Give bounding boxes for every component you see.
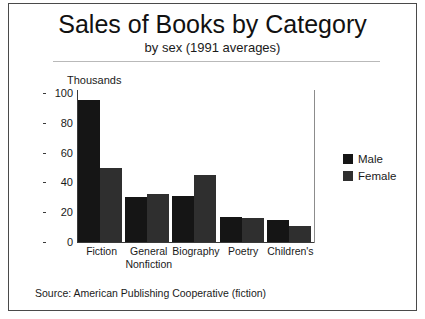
y-axis-unit-label: Thousands <box>67 74 121 86</box>
y-tick-mark <box>43 153 46 154</box>
bar-female <box>289 226 311 242</box>
bar-female <box>242 218 264 242</box>
bars-layer <box>78 93 314 242</box>
y-tick-mark <box>43 212 46 213</box>
x-axis-line <box>77 242 315 243</box>
category-label-line1: Fiction <box>86 245 117 257</box>
category-label-line1: General <box>130 245 167 257</box>
y-tick-mark <box>43 93 46 94</box>
bar-group <box>172 93 219 242</box>
y-tick-label: 20 <box>43 206 73 218</box>
bar-male <box>267 220 289 242</box>
legend-swatch-icon <box>343 154 353 164</box>
source-note: Source: American Publishing Cooperative … <box>35 287 266 299</box>
legend-label: Male <box>358 153 383 165</box>
y-tick-label: 100 <box>43 87 73 99</box>
bar-group <box>78 93 125 242</box>
bar-male <box>220 217 242 242</box>
legend-label: Female <box>358 170 396 182</box>
bar-male <box>172 196 194 242</box>
plot-area: Thousands 020406080100 FictionGeneralNon… <box>9 4 416 310</box>
plot-right-border <box>314 90 315 243</box>
bar-group <box>125 93 172 242</box>
bar-female <box>100 168 122 243</box>
y-tick-label: 60 <box>43 147 73 159</box>
bar-male <box>78 100 100 242</box>
category-label-line2: Nonfiction <box>116 258 181 271</box>
category-label: Children's <box>258 245 323 258</box>
bar-female <box>147 194 169 242</box>
y-tick-mark <box>43 123 46 124</box>
x-axis-category-labels: FictionGeneralNonfictionBiographyPoetryC… <box>78 245 314 279</box>
category-label-line1: Children's <box>267 245 313 257</box>
legend-swatch-icon <box>343 171 353 181</box>
y-tick-label: 40 <box>43 176 73 188</box>
bar-male <box>125 197 147 242</box>
y-axis-tick-labels: 020406080100 <box>43 4 73 310</box>
legend-item: Female <box>343 167 396 184</box>
legend-item: Male <box>343 150 396 167</box>
y-tick-mark <box>43 182 46 183</box>
chart-figure: Sales of Books by Category by sex (1991 … <box>8 3 417 311</box>
bar-female <box>194 175 216 242</box>
y-tick-mark <box>43 242 46 243</box>
y-tick-label: 80 <box>43 117 73 129</box>
category-label-line1: Poetry <box>228 245 258 257</box>
bar-group <box>220 93 267 242</box>
bar-group <box>267 93 314 242</box>
chart-legend: MaleFemale <box>343 150 396 184</box>
